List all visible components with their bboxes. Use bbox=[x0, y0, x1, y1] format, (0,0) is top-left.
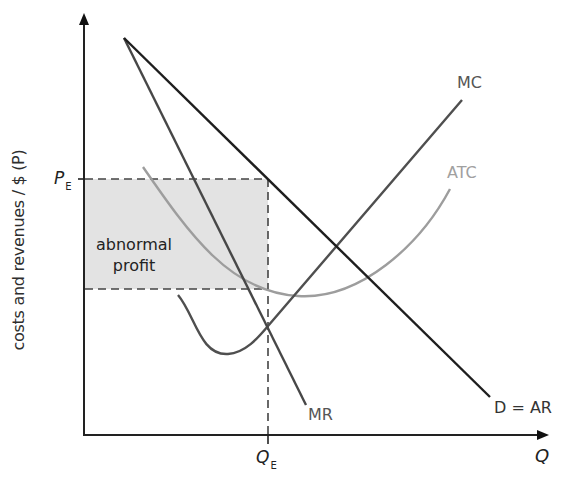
y-axis-arrow-icon bbox=[79, 13, 89, 25]
price-label-main: P bbox=[54, 168, 64, 188]
x-axis-label: Q bbox=[535, 445, 549, 466]
abnormal-profit-line2: profit bbox=[96, 255, 172, 276]
mr-label: MR bbox=[308, 405, 333, 424]
atc-label: ATC bbox=[447, 163, 477, 182]
mc-label: MC bbox=[457, 73, 482, 92]
quantity-label-subscript: E bbox=[270, 460, 276, 471]
price-equilibrium-label: PE bbox=[54, 168, 72, 188]
quantity-equilibrium-label: QE bbox=[256, 447, 277, 467]
abnormal-profit-label: abnormal profit bbox=[96, 234, 172, 276]
abnormal-profit-line1: abnormal bbox=[96, 234, 172, 255]
y-axis-label: costs and revenues / $ (P) bbox=[9, 150, 28, 351]
quantity-label-main: Q bbox=[256, 447, 269, 467]
x-axis-arrow-icon bbox=[537, 430, 549, 440]
price-label-subscript: E bbox=[65, 181, 71, 192]
demand-label: D = AR bbox=[494, 398, 552, 417]
